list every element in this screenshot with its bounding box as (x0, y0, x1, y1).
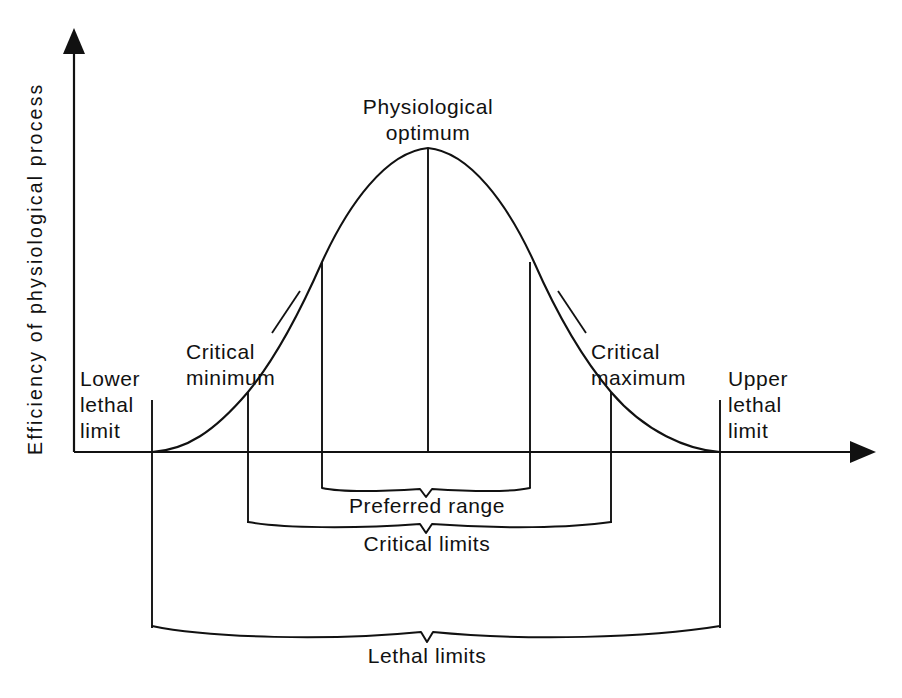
lethal-limits-brace (152, 626, 720, 642)
preferred-range-label: Preferred range (349, 494, 505, 517)
critical-minimum-label-line1: Critical (186, 340, 255, 363)
efficiency-curve-group (152, 148, 720, 452)
critical-maximum-leader (558, 291, 586, 333)
lower-lethal-limit-label-line3: limit (80, 419, 120, 442)
upper-lethal-limit-label-line2: lethal (728, 393, 782, 416)
leader-lines-group (272, 291, 586, 333)
critical-limits-label: Critical limits (364, 532, 491, 555)
physiological-optimum-label-line2: optimum (386, 121, 471, 144)
lethal-limits-label: Lethal limits (368, 644, 487, 667)
upper-lethal-limit-label-line1: Upper (728, 367, 788, 390)
physiological-optimum-label-line1: Physiological (363, 95, 493, 118)
lower-lethal-limit-label-line2: lethal (80, 393, 134, 416)
bell-curve-path (152, 148, 720, 452)
figure-container: Efficiency of physiological process Phys… (0, 0, 902, 698)
critical-maximum-label-line2: maximum (591, 366, 686, 389)
critical-minimum-label-line2: minimum (186, 366, 275, 389)
upper-lethal-limit-label-line3: limit (728, 419, 768, 442)
lower-lethal-limit-label-line1: Lower (80, 367, 140, 390)
critical-maximum-label-line1: Critical (591, 340, 660, 363)
tolerance-curve-diagram: Efficiency of physiological process Phys… (0, 0, 902, 698)
y-axis-label: Efficiency of physiological process (24, 82, 46, 455)
critical-minimum-leader (272, 291, 300, 333)
y-axis-arrow-icon (63, 28, 85, 54)
x-axis-arrow-icon (850, 441, 876, 463)
